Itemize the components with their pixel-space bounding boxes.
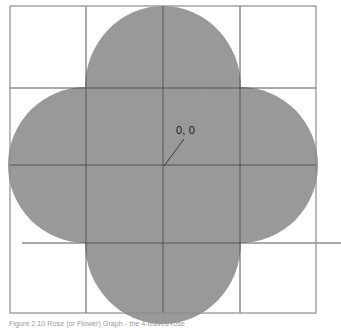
origin-label: 0, 0 — [176, 124, 195, 136]
figure-caption: Figure 2.10 Rose (or Flower) Graph - the… — [9, 319, 341, 328]
rose-graph-plot — [0, 0, 341, 330]
figure-container: 0, 0 Figure 2.10 Rose (or Flower) Graph … — [0, 0, 341, 330]
